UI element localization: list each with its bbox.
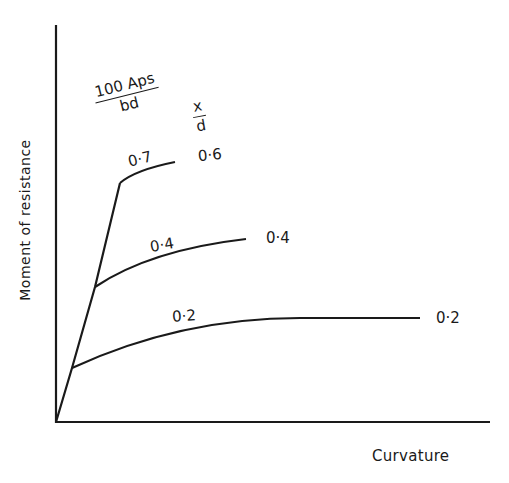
curve-0-2-ratio-label: 0·2 [171,306,196,326]
curve-0-2 [72,318,420,368]
curve-0-4-xd-label: 0·4 [266,229,290,247]
elastic-branch [56,183,120,422]
y-axis-label: Moment of resistance [17,139,33,300]
curve-0-7-xd-label: 0·6 [197,145,223,165]
moment-curvature-plot [0,0,509,483]
curve-0-2-xd-label: 0·2 [436,309,460,327]
x-axis-label: Curvature [372,447,449,465]
